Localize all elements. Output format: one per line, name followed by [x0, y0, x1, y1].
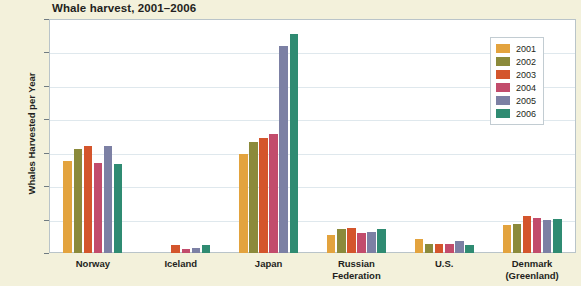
- x-axis-category-label: RussianFederation: [332, 258, 381, 281]
- x-axis-category-line: Russian: [332, 258, 381, 270]
- legend-item-2002[interactable]: 2002: [496, 55, 536, 68]
- legend-swatch-icon: [496, 109, 510, 118]
- y-tick-mark: [44, 253, 49, 254]
- y-tick-mark: [44, 119, 49, 120]
- legend-item-label: 2003: [516, 70, 536, 80]
- legend-item-label: 2006: [516, 109, 536, 119]
- y-tick-mark: [44, 86, 49, 87]
- y-tick-mark: [44, 186, 49, 187]
- y-tick-mark: [44, 52, 49, 53]
- legend-item-2003[interactable]: 2003: [496, 68, 536, 81]
- x-axis-category-line: Norway: [76, 258, 110, 270]
- legend-swatch-icon: [496, 83, 510, 92]
- y-tick-mark: [44, 220, 49, 221]
- gridline: [50, 154, 575, 155]
- x-axis-category-line: Federation: [332, 270, 381, 282]
- x-axis-category-label: Norway: [76, 258, 110, 270]
- x-axis-category-label: Denmark(Greenland): [505, 258, 558, 281]
- chart-figure: Whale harvest, 2001–2006 Whales Harveste…: [0, 0, 581, 286]
- legend-item-label: 2004: [516, 83, 536, 93]
- x-axis-category-label: Iceland: [164, 258, 197, 270]
- page-title: Whale harvest, 2001–2006: [52, 2, 196, 14]
- legend-item-label: 2001: [516, 44, 536, 54]
- legend-swatch-icon: [496, 57, 510, 66]
- x-axis-category-label: U.S.: [435, 258, 453, 270]
- y-tick-mark: [44, 19, 49, 20]
- legend-item-label: 2005: [516, 96, 536, 106]
- gridline: [50, 187, 575, 188]
- legend-swatch-icon: [496, 44, 510, 53]
- legend[interactable]: 200120022003200420052006: [490, 37, 544, 125]
- legend-swatch-icon: [496, 70, 510, 79]
- legend-item-2001[interactable]: 2001: [496, 42, 536, 55]
- gridline: [50, 221, 575, 222]
- y-axis-title: Whales Harvested per Year: [26, 44, 37, 224]
- y-tick-mark: [44, 153, 49, 154]
- x-axis-category-line: Denmark: [505, 258, 558, 270]
- legend-item-2005[interactable]: 2005: [496, 94, 536, 107]
- x-axis-category-line: U.S.: [435, 258, 453, 270]
- legend-item-label: 2002: [516, 57, 536, 67]
- x-axis-category-line: (Greenland): [505, 270, 558, 282]
- x-axis-category-label: Japan: [255, 258, 282, 270]
- legend-item-2004[interactable]: 2004: [496, 81, 536, 94]
- x-axis-category-line: Iceland: [164, 258, 197, 270]
- x-axis-category-line: Japan: [255, 258, 282, 270]
- legend-swatch-icon: [496, 96, 510, 105]
- legend-item-2006[interactable]: 2006: [496, 107, 536, 120]
